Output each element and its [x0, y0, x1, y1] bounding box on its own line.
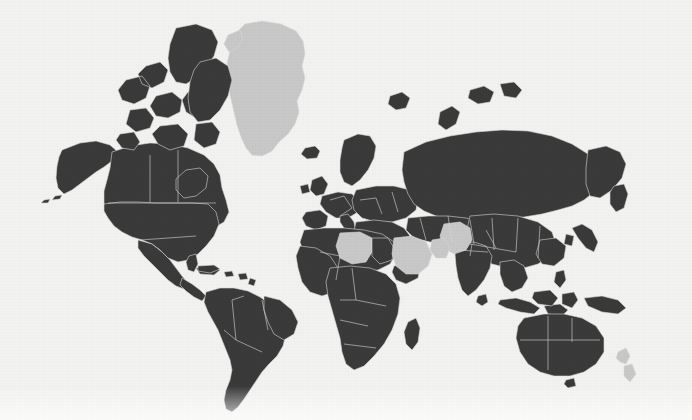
region-russia[interactable]: [402, 130, 600, 220]
world-map-figure: [0, 0, 692, 420]
world-map-svg[interactable]: [0, 0, 692, 420]
